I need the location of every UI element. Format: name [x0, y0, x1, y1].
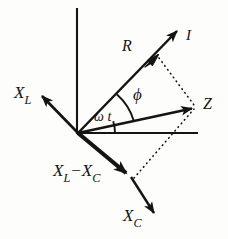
arc-phi	[117, 95, 134, 122]
label-capacitive-reactance-subscript: C	[133, 216, 141, 230]
arc-omega-t	[113, 121, 115, 133]
label-inductive-reactance: XL	[14, 84, 31, 105]
label-capacitive-reactance-symbol: X	[123, 206, 133, 225]
label-current: I	[186, 28, 191, 43]
label-phase-angle: ϕ	[133, 86, 142, 103]
dotted-line-r-to-z	[159, 58, 194, 105]
label-net-reactance: XL−XC	[53, 162, 100, 183]
label-inductive-reactance-subscript: L	[24, 93, 31, 107]
label-inductive-reactance-symbol: X	[14, 83, 24, 102]
impedance-phasor-diagram: XL I R Z ϕ ω t XL−XC XC	[0, 0, 228, 239]
label-net-reactance-operator: −	[70, 161, 82, 180]
label-angular-time: ω t	[94, 110, 111, 124]
label-net-reactance-first-subscript: L	[63, 171, 70, 185]
vector-inductive-reactance	[42, 96, 78, 133]
label-resistance: R	[122, 38, 132, 54]
label-net-reactance-second-symbol: X	[82, 161, 92, 180]
label-net-reactance-first-symbol: X	[53, 161, 63, 180]
label-net-reactance-second-subscript: C	[92, 171, 100, 185]
diagram-canvas	[0, 0, 228, 239]
label-capacitive-reactance: XC	[123, 207, 142, 228]
label-impedance: Z	[203, 96, 212, 112]
